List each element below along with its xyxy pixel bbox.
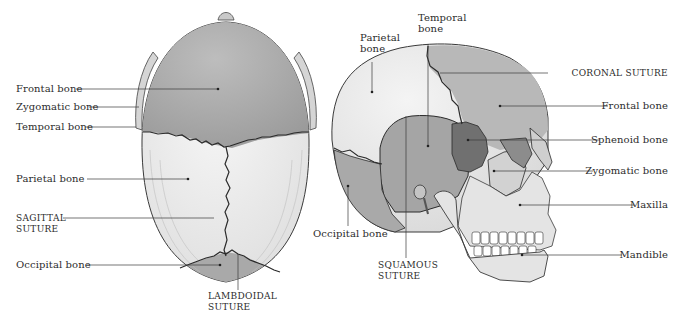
label-frontal-bone-side: Frontal bone xyxy=(596,100,668,111)
skull-diagram: Frontal bone Zygomatic bone Temporal bon… xyxy=(0,0,682,322)
label-zygomatic-bone-top: Zygomatic bone xyxy=(16,101,99,112)
label-maxilla: Maxilla xyxy=(620,199,668,210)
label-occipital-bone-side: Occipital bone xyxy=(313,228,388,239)
label-parietal-bone-top: Parietal bone xyxy=(16,173,85,184)
skull-illustrations xyxy=(0,0,682,322)
label-temporal-bone-top: Temporal bone xyxy=(16,121,93,132)
label-lambdoidal-suture: LAMBDOIDAL SUTURE xyxy=(208,291,277,313)
label-mandible: Mandible xyxy=(610,249,668,260)
label-temporal-bone-side: Temporal bone xyxy=(418,12,466,34)
skull-side-view xyxy=(332,44,556,282)
skull-top-view xyxy=(130,0,320,300)
label-coronal-suture: CORONAL SUTURE xyxy=(552,68,668,79)
label-sagittal-suture: SAGITTAL SUTURE xyxy=(16,213,66,235)
label-frontal-bone-top: Frontal bone xyxy=(16,83,83,94)
label-sphenoid-bone: Sphenoid bone xyxy=(584,134,668,145)
label-occipital-bone-top: Occipital bone xyxy=(16,259,91,270)
label-parietal-bone-side: Parietal bone xyxy=(360,32,400,54)
label-zygomatic-bone-side: Zygomatic bone xyxy=(576,165,668,176)
label-squamous-suture: SQUAMOUS SUTURE xyxy=(378,260,438,282)
